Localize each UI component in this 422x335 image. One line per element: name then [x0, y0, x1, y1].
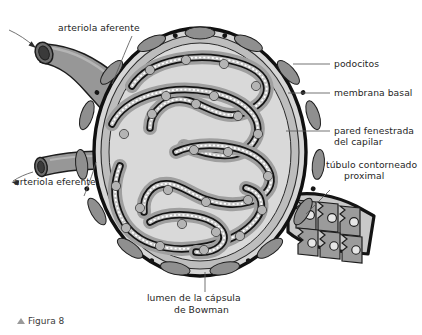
label-arteriola-eferente: arteriola eferente: [14, 176, 96, 188]
label-membrana-basal: membrana basal: [334, 87, 412, 99]
afferent-flow-arrow-icon: [9, 30, 36, 48]
figure-caption: Figura 8: [17, 316, 64, 326]
caption-text: Figura 8: [28, 316, 64, 326]
label-arteriola-aferente: arteriola aferente: [58, 22, 140, 34]
caption-triangle-icon: [17, 318, 25, 324]
figure-canvas: .cap-out { fill:none; stroke:#141414; st…: [0, 0, 422, 335]
label-podocitos: podocitos: [334, 58, 379, 70]
